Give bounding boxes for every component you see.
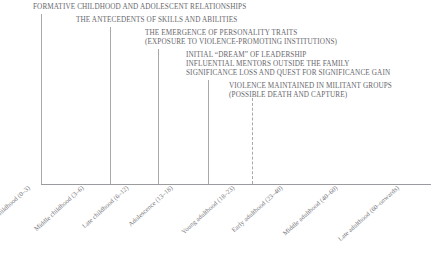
caption-possible-death-capture: (POSSIBLE DEATH AND CAPTURE)	[229, 91, 347, 100]
caption-violence-promoting-institutions: (EXPOSURE TO VIOLENCE-PROMOTING INSTITUT…	[145, 38, 337, 47]
stage-label-early-adulthood: Early adulthood (23–40)	[230, 184, 284, 234]
stage-label-late-adulthood: Late adulthood (60–onwards)	[336, 184, 400, 243]
vertical-rule-2	[110, 27, 111, 184]
stage-label-young-adulthood: Young adulthood (18–23)	[180, 184, 237, 236]
caption-dream-of-leadership: INITIAL “DREAM” OF LEADERSHIP	[186, 51, 306, 60]
stage-label-group: Early childhood (0–3) Middle childhood (…	[0, 184, 439, 267]
caption-influential-mentors: INFLUENTIAL MENTORS OUTSIDE THE FAMILY	[186, 60, 350, 69]
stage-label-late-childhood: Late childhood (6–12)	[80, 184, 130, 230]
caption-formative-relationships: FORMATIVE CHILDHOOD AND ADOLESCENT RELAT…	[33, 3, 246, 12]
caption-violence-militant-groups: VIOLENCE MAINTAINED IN MILITANT GROUPS	[229, 82, 392, 91]
vertical-rule-1	[41, 14, 42, 184]
caption-antecedents-skills: THE ANTECEDENTS OF SKILLS AND ABILITIES	[76, 16, 237, 25]
caption-personality-traits: THE EMERGENCE OF PERSONALITY TRAITS	[145, 29, 297, 38]
stage-label-middle-adulthood: Middle adulthood (40–60)	[281, 184, 339, 237]
developmental-timeline-diagram: FORMATIVE CHILDHOOD AND ADOLESCENT RELAT…	[0, 0, 439, 267]
vertical-rule-5-dashed	[252, 98, 253, 184]
vertical-rule-4	[208, 80, 209, 184]
stage-label-adolescence: Adolescence (13–18)	[127, 184, 175, 228]
stage-label-early-childhood: Early childhood (0–3)	[0, 184, 32, 230]
vertical-rule-3	[158, 49, 159, 184]
stage-label-middle-childhood: Middle childhood (3–6)	[32, 184, 85, 233]
caption-significance-loss-gain: SIGNIFICANCE LOSS AND QUEST FOR SIGNIFIC…	[186, 69, 390, 78]
caption-stack: FORMATIVE CHILDHOOD AND ADOLESCENT RELAT…	[0, 0, 439, 110]
